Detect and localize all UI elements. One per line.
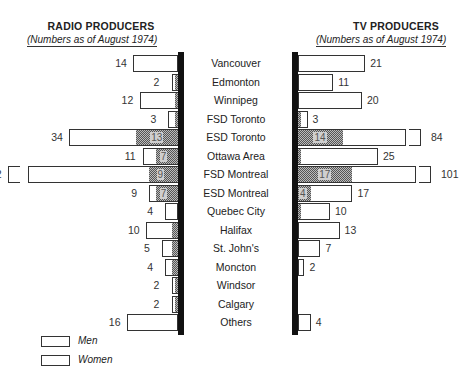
radio-men-value: 3 xyxy=(150,111,156,128)
radio-men-value: 9 xyxy=(131,185,137,202)
radio-women-bar xyxy=(175,296,178,313)
tv-title: TV PRODUCERS xyxy=(335,20,457,32)
city-label: ESD Toronto xyxy=(186,129,286,146)
legend-women-swatch xyxy=(41,355,70,366)
city-label: FSD Montreal xyxy=(186,166,286,183)
radio-women-bar xyxy=(172,222,178,239)
radio-women-bar: 13 xyxy=(136,129,178,146)
radio-women-value: 7 xyxy=(160,151,168,162)
radio-women-bar: 7 xyxy=(156,148,178,165)
city-label: ESD Montreal xyxy=(186,185,286,202)
tv-men-value: 17 xyxy=(357,185,369,202)
radio-women-bar xyxy=(172,240,178,257)
radio-men-bar xyxy=(140,92,178,109)
radio-men-value: 2 xyxy=(154,74,160,91)
radio-men-value: 10 xyxy=(128,222,140,239)
city-label: Winnipeg xyxy=(186,92,286,109)
radio-title: RADIO PRODUCERS xyxy=(40,20,162,32)
radio-women-bar xyxy=(172,259,178,276)
tv-women-bar: 4 xyxy=(298,185,311,202)
radio-women-value: 9 xyxy=(157,169,165,180)
radio-women-value: 13 xyxy=(150,132,163,143)
radio-women-bar: 7 xyxy=(156,185,178,202)
radio-men-value: 34 xyxy=(51,129,63,146)
city-label: Ottawa Area xyxy=(186,148,286,165)
radio-men-value: 16 xyxy=(109,314,121,331)
radio-subtitle: (Numbers as of August 1974) xyxy=(27,34,157,47)
tv-men-value: 101 xyxy=(441,166,459,183)
tv-women-bar xyxy=(298,111,301,128)
radio-women-value: 7 xyxy=(160,188,168,199)
tv-men-value: 10 xyxy=(335,203,347,220)
radio-men-value: 52 xyxy=(0,166,2,183)
radio-women-bar xyxy=(175,111,178,128)
tv-women-value: 4 xyxy=(299,188,307,199)
radio-men-value: 11 xyxy=(125,148,136,165)
tv-men-value: 13 xyxy=(345,222,357,239)
tv-men-bar xyxy=(298,74,333,91)
radio-men-value: 4 xyxy=(147,259,153,276)
radio-men-value: 2 xyxy=(154,277,160,294)
tv-men-bar xyxy=(298,92,362,109)
tv-men-bar xyxy=(298,222,340,239)
radio-men-bar xyxy=(133,55,178,72)
tv-men-value: 3 xyxy=(313,111,319,128)
tv-men-value: 20 xyxy=(367,92,379,109)
radio-men-bar xyxy=(127,314,178,331)
tv-men-bar xyxy=(298,240,320,257)
tv-subtitle: (Numbers as of August 1974) xyxy=(316,34,446,47)
radio-women-bar xyxy=(175,74,178,91)
city-label: Halifax xyxy=(186,222,286,239)
tv-women-bar xyxy=(298,203,301,220)
city-label: Moncton xyxy=(186,259,286,276)
radio-men-value: 5 xyxy=(144,240,150,257)
tv-men-value: 7 xyxy=(325,240,331,257)
tv-women-value: 14 xyxy=(313,132,326,143)
tv-men-value: 21 xyxy=(370,55,382,72)
tv-men-bar xyxy=(298,203,330,220)
tv-men-bar xyxy=(298,148,378,165)
radio-axis xyxy=(178,52,184,335)
city-label: Calgary xyxy=(186,296,286,313)
legend-men-label: Men xyxy=(78,335,97,346)
tv-women-bar xyxy=(298,148,301,165)
radio-men-value: 14 xyxy=(115,55,127,72)
city-label: Others xyxy=(186,314,286,331)
radio-women-bar xyxy=(175,92,178,109)
tv-men-value: 25 xyxy=(383,148,395,165)
city-label: Vancouver xyxy=(186,55,286,72)
legend-men-swatch xyxy=(41,336,70,347)
tv-break-end xyxy=(409,129,421,146)
radio-men-bar xyxy=(165,203,178,220)
city-label: Quebec City xyxy=(186,203,286,220)
tv-men-bar xyxy=(298,55,365,72)
tv-women-bar: 17 xyxy=(298,166,352,183)
tv-men-value: 4 xyxy=(316,314,322,331)
tv-women-bar: 14 xyxy=(298,129,343,146)
tv-men-value: 2 xyxy=(309,259,315,276)
tv-men-bar xyxy=(298,259,304,276)
tv-break-end xyxy=(419,166,431,183)
tv-men-value: 84 xyxy=(431,129,443,146)
city-label: Edmonton xyxy=(186,74,286,91)
legend-women-label: Women xyxy=(78,354,112,365)
radio-break-end xyxy=(8,166,20,183)
radio-women-bar xyxy=(175,277,178,294)
radio-men-value: 12 xyxy=(122,92,134,109)
city-label: Windsor xyxy=(186,277,286,294)
tv-men-value: 11 xyxy=(338,74,349,91)
radio-men-value: 4 xyxy=(147,203,153,220)
radio-women-bar: 9 xyxy=(149,166,178,183)
tv-women-value: 17 xyxy=(318,169,331,180)
city-label: St. John's xyxy=(186,240,286,257)
radio-men-value: 2 xyxy=(154,296,160,313)
city-label: FSD Toronto xyxy=(186,111,286,128)
tv-men-bar xyxy=(298,314,311,331)
